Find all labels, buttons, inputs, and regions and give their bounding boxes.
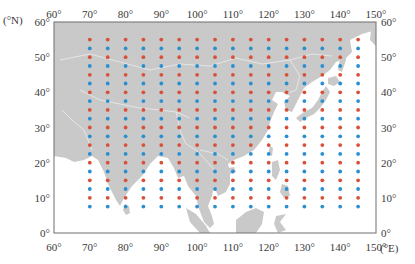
red-point — [249, 143, 253, 147]
blue-point — [338, 187, 342, 191]
red-point — [267, 161, 271, 165]
red-point — [356, 55, 360, 59]
red-point — [338, 126, 342, 130]
red-point — [231, 38, 235, 42]
blue-point — [106, 152, 110, 156]
blue-point — [106, 117, 110, 121]
red-point — [320, 38, 324, 42]
red-point — [320, 108, 324, 112]
red-point — [124, 196, 128, 200]
blue-point — [195, 205, 199, 209]
blue-point — [195, 187, 199, 191]
blue-point — [213, 152, 217, 156]
blue-point — [177, 82, 181, 86]
red-point — [267, 196, 271, 200]
blue-point — [159, 117, 163, 121]
blue-point — [177, 117, 181, 121]
blue-point — [142, 64, 146, 68]
red-point — [124, 90, 128, 94]
red-point — [303, 196, 307, 200]
red-point — [231, 178, 235, 182]
blue-point — [285, 117, 289, 121]
y-tick-right: 60° — [381, 17, 396, 28]
blue-point — [356, 117, 360, 121]
blue-point — [338, 99, 342, 103]
red-point — [142, 126, 146, 130]
red-point — [338, 196, 342, 200]
red-point — [285, 178, 289, 182]
blue-point — [285, 134, 289, 138]
red-point — [303, 161, 307, 165]
red-point — [159, 108, 163, 112]
red-point — [124, 108, 128, 112]
blue-point — [249, 99, 253, 103]
blue-point — [213, 134, 217, 138]
blue-point — [267, 99, 271, 103]
blue-point — [159, 152, 163, 156]
x-tick-top: 110° — [223, 9, 244, 20]
blue-point — [142, 152, 146, 156]
x-tick-top: 100° — [187, 9, 208, 20]
blue-point — [231, 64, 235, 68]
blue-point — [106, 64, 110, 68]
x-tick-bottom: 110° — [223, 242, 244, 253]
red-point — [195, 73, 199, 77]
red-point — [338, 73, 342, 77]
blue-point — [320, 187, 324, 191]
red-point — [285, 161, 289, 165]
blue-point — [213, 187, 217, 191]
red-point — [177, 126, 181, 130]
blue-point — [124, 117, 128, 121]
blue-point — [195, 47, 199, 51]
red-point — [106, 143, 110, 147]
blue-point — [195, 82, 199, 86]
x-tick-top: 70° — [82, 9, 97, 20]
blue-point — [88, 64, 92, 68]
blue-point — [285, 187, 289, 191]
red-point — [106, 108, 110, 112]
y-tick-left: 40° — [16, 87, 50, 98]
red-point — [213, 90, 217, 94]
blue-point — [124, 205, 128, 209]
x-tick-top: 90° — [154, 9, 169, 20]
red-point — [106, 38, 110, 42]
blue-point — [249, 152, 253, 156]
red-point — [249, 38, 253, 42]
blue-point — [267, 117, 271, 121]
blue-point — [338, 47, 342, 51]
red-point — [159, 73, 163, 77]
red-point — [338, 38, 342, 42]
blue-point — [159, 82, 163, 86]
red-point — [195, 90, 199, 94]
red-point — [285, 73, 289, 77]
red-point — [213, 108, 217, 112]
blue-point — [303, 117, 307, 121]
blue-point — [142, 99, 146, 103]
red-point — [231, 161, 235, 165]
blue-point — [124, 99, 128, 103]
blue-point — [159, 187, 163, 191]
red-point — [88, 178, 92, 182]
red-point — [356, 38, 360, 42]
red-point — [267, 178, 271, 182]
blue-point — [88, 170, 92, 174]
blue-point — [213, 64, 217, 68]
red-point — [142, 90, 146, 94]
red-point — [124, 143, 128, 147]
blue-point — [177, 187, 181, 191]
red-point — [159, 143, 163, 147]
red-point — [195, 38, 199, 42]
blue-point — [320, 152, 324, 156]
blue-point — [267, 82, 271, 86]
red-point — [213, 126, 217, 130]
x-tick-top: 130° — [294, 9, 315, 20]
red-point — [213, 55, 217, 59]
red-point — [267, 73, 271, 77]
blue-point — [124, 64, 128, 68]
blue-point — [124, 82, 128, 86]
x-tick-top: 140° — [330, 9, 351, 20]
red-point — [88, 55, 92, 59]
blue-point — [303, 64, 307, 68]
x-tick-top: 120° — [258, 9, 279, 20]
blue-point — [285, 170, 289, 174]
